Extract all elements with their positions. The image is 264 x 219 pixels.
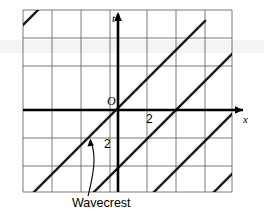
scan-artifact-band (0, 40, 264, 53)
origin-label: O (107, 95, 116, 107)
x-axis-tick-label: 2 (146, 113, 153, 125)
diagram-canvas (0, 0, 264, 219)
wavecrest-spacetime-diagram: t x O 2 2 Wavecrest (0, 0, 264, 219)
t-axis-tick-label: 2 (104, 138, 111, 150)
x-axis-label: x (243, 114, 248, 125)
wavecrest-annotation-label: Wavecrest (72, 197, 131, 210)
t-axis-label: t (112, 13, 115, 24)
plot-background (23, 10, 232, 192)
right-arrow-icon (235, 106, 243, 114)
